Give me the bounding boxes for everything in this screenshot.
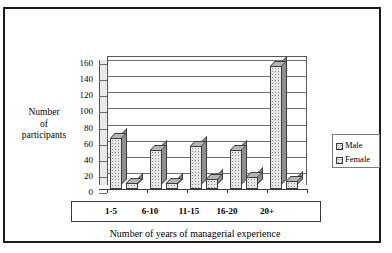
- legend-item-male[interactable]: Male: [336, 140, 362, 150]
- bar-male-20+: [270, 66, 282, 189]
- x-tick-16-20: [227, 189, 228, 193]
- bar-front-face: [150, 150, 162, 189]
- x-tick-20+: [267, 189, 268, 193]
- y-tick-label-160: 160: [69, 58, 93, 68]
- y-tick-label-80: 80: [69, 123, 93, 133]
- y-tick-label-120: 120: [69, 90, 93, 100]
- bar-front-face: [230, 150, 242, 189]
- bar-front-face: [166, 183, 178, 189]
- gridline-tick-120: [99, 96, 107, 97]
- gridline-tick-20: [99, 177, 107, 178]
- bar-front-face: [190, 146, 202, 189]
- bar-female-16-20: [246, 177, 258, 189]
- gridline-tick-100: [99, 112, 107, 113]
- y-tick-label-100: 100: [69, 106, 93, 116]
- bar-male-6-10: [150, 150, 162, 189]
- bar-female-20+: [286, 181, 298, 189]
- legend-item-female[interactable]: Female: [336, 154, 370, 164]
- y-tick-label-0: 0: [69, 187, 93, 197]
- bar-front-face: [270, 66, 282, 189]
- y-axis-title: Number of participants: [13, 107, 75, 142]
- bar-front-face: [246, 177, 258, 189]
- bar-male-11-15: [190, 146, 202, 189]
- bar-female-1-5: [126, 183, 138, 189]
- category-label-1-5: 1-5: [94, 206, 128, 216]
- x-tick-11-15: [187, 189, 188, 193]
- y-tick-label-60: 60: [69, 139, 93, 149]
- chart-frame: Number of participants 16014012010080604…: [3, 7, 381, 243]
- bar-front-face: [286, 181, 298, 189]
- y-axis-title-line-3: participants: [13, 130, 75, 142]
- plot-area: [99, 56, 307, 193]
- category-label-11-15: 11-15: [172, 206, 206, 216]
- y-axis-title-line-2: of: [13, 119, 75, 131]
- category-label-box: 1-56-1011-1516-2020+: [71, 201, 321, 222]
- bar-side-face: [282, 56, 287, 184]
- legend-swatch-female: [336, 157, 343, 164]
- legend-swatch-male: [336, 143, 343, 150]
- gridline-tick-0: [99, 193, 107, 194]
- gridline-tick-40: [99, 161, 107, 162]
- category-label-20+: 20+: [250, 206, 284, 216]
- gridline-tick-160: [99, 64, 107, 65]
- category-label-6-10: 6-10: [133, 206, 167, 216]
- y-axis-title-line-1: Number: [13, 107, 75, 119]
- x-axis-line: [99, 189, 307, 190]
- legend: MaleFemale: [332, 134, 380, 168]
- bar-front-face: [110, 138, 122, 189]
- y-tick-label-140: 140: [69, 74, 93, 84]
- x-tick-1-5: [107, 189, 108, 193]
- bar-female-11-15: [206, 179, 218, 189]
- x-tick-6-10: [147, 189, 148, 193]
- x-tick-end: [307, 189, 308, 193]
- bar-female-6-10: [166, 183, 178, 189]
- x-axis-title: Number of years of managerial experience: [45, 228, 345, 239]
- bar-front-face: [206, 179, 218, 189]
- y-tick-label-40: 40: [69, 155, 93, 165]
- gridline-tick-140: [99, 80, 107, 81]
- bar-front-face: [126, 183, 138, 189]
- bar-male-16-20: [230, 150, 242, 189]
- bar-male-1-5: [110, 138, 122, 189]
- legend-label-female: Female: [345, 154, 370, 164]
- y-tick-label-20: 20: [69, 171, 93, 181]
- gridline-tick-80: [99, 129, 107, 130]
- gridline-tick-60: [99, 145, 107, 146]
- category-label-16-20: 16-20: [210, 206, 244, 216]
- legend-label-male: Male: [345, 140, 362, 150]
